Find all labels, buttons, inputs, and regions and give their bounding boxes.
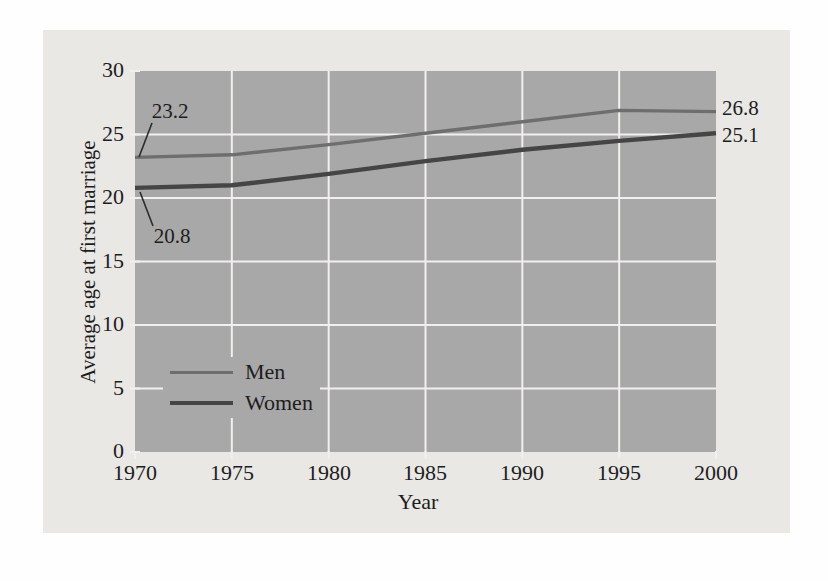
legend-item-women: Women bbox=[170, 391, 313, 415]
legend-label-men: Men bbox=[245, 359, 285, 385]
x-tick-label-2000: 2000 bbox=[676, 461, 756, 486]
annotation-women-1970: 20.8 bbox=[142, 225, 202, 249]
page: { "figure": { "page_color": "#fefefe", "… bbox=[0, 0, 828, 581]
y-tick-label-30: 30 bbox=[78, 58, 124, 83]
y-axis-title: Average age at first marriage bbox=[77, 140, 101, 383]
men-line-swatch bbox=[170, 371, 233, 374]
x-tick-label-1990: 1990 bbox=[482, 461, 562, 486]
legend: Men Women bbox=[163, 357, 320, 418]
x-tick-label-1980: 1980 bbox=[289, 461, 369, 486]
figure-panel: 30 25 20 15 10 5 0 1970 1975 1980 1985 1… bbox=[43, 30, 790, 533]
annotation-men-2000: 26.8 bbox=[722, 97, 759, 121]
leader-line-23-2 bbox=[139, 123, 152, 157]
x-axis-title: Year bbox=[378, 490, 458, 515]
legend-item-men: Men bbox=[170, 360, 285, 384]
x-tick-label-1995: 1995 bbox=[579, 461, 659, 486]
x-tick-label-1970: 1970 bbox=[95, 461, 175, 486]
x-tick-label-1975: 1975 bbox=[192, 461, 272, 486]
x-tick-label-1985: 1985 bbox=[385, 461, 465, 486]
annotation-men-1970: 23.2 bbox=[140, 100, 200, 124]
annotation-women-2000: 25.1 bbox=[722, 124, 759, 148]
women-line-swatch bbox=[170, 401, 233, 405]
legend-label-women: Women bbox=[245, 390, 313, 416]
